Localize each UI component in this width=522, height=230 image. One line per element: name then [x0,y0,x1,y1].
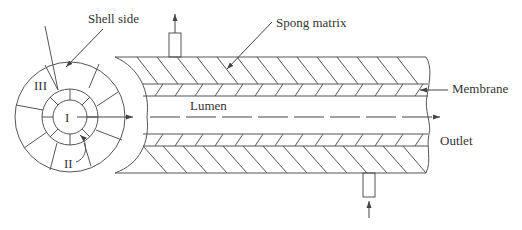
spong-matrix-pointer [227,22,272,69]
region-2-pointer [76,135,86,162]
module-body [115,57,440,173]
region-3-label: III [34,78,47,93]
outlet-label: Outlet [440,133,473,148]
bottom-shell-port [363,173,375,218]
membrane-label: Membrane [452,81,509,96]
bottom-spong-hatch [143,146,426,173]
top-shell-port [169,14,181,57]
bottom-membrane-hatch [155,134,423,146]
membrane-module-diagram: III I II Shell side [0,0,522,230]
top-spong-hatch [137,57,418,84]
shell-side-label: Shell side [88,11,139,26]
cross-section: III I II [15,26,125,172]
spong-matrix-label: Spong matrix [276,15,347,30]
lumen-label: Lumen [190,98,227,113]
top-membrane-hatch [155,84,423,96]
region-1-label: I [65,110,69,125]
shell-side-pointer [66,29,103,67]
region-2-label: II [64,156,73,171]
